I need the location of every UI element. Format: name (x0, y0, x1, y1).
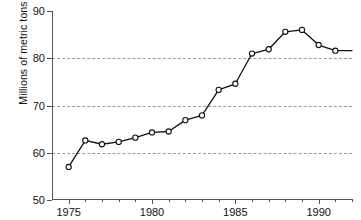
data-point (66, 164, 71, 169)
data-point (116, 139, 121, 144)
data-point (99, 142, 104, 147)
data-point (216, 87, 221, 92)
y-axis-title: Millions of metric tons (17, 0, 31, 133)
y-tick-label: 80 (33, 53, 45, 64)
plot-area: 5060708090 1975198019851990 (52, 11, 352, 200)
data-point (249, 51, 254, 56)
x-tick-label: 1980 (140, 207, 164, 218)
data-point (316, 42, 321, 47)
series-markers (66, 27, 338, 169)
y-tick-label: 90 (33, 6, 45, 17)
data-point (83, 138, 88, 143)
data-point (233, 81, 238, 86)
data-series-line (52, 11, 352, 200)
data-point (333, 48, 338, 53)
series-polyline (69, 30, 352, 167)
y-tick-label: 50 (33, 195, 45, 206)
data-point (183, 118, 188, 123)
data-point (283, 29, 288, 34)
data-point (199, 113, 204, 118)
x-tick-minor (352, 199, 353, 202)
data-point (266, 47, 271, 52)
x-tick-label: 1990 (306, 207, 330, 218)
data-point (149, 130, 154, 135)
x-tick-label: 1985 (223, 207, 247, 218)
y-tick-label: 60 (33, 147, 45, 158)
y-tick (47, 200, 52, 201)
data-point (299, 27, 304, 32)
data-point (133, 135, 138, 140)
x-tick-label: 1975 (56, 207, 80, 218)
data-point (166, 129, 171, 134)
line-chart: Millions of metric tons 5060708090 19751… (0, 0, 361, 220)
y-tick-label: 70 (33, 100, 45, 111)
